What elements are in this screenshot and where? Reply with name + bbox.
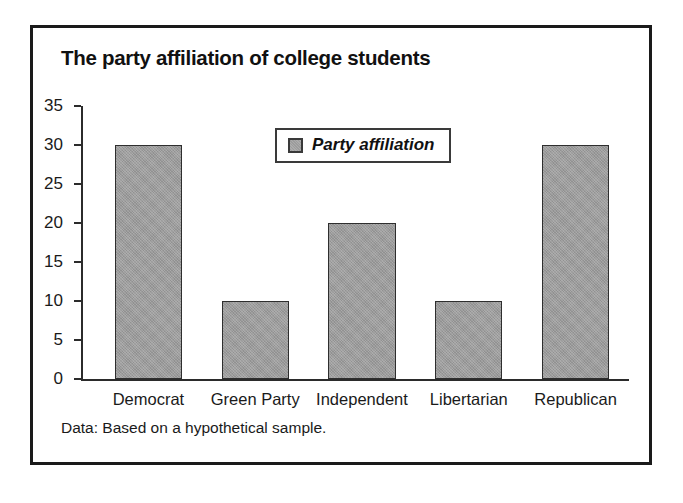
chart-title: The party affiliation of college student…: [61, 46, 430, 70]
y-axis-tick-label: 5: [54, 330, 63, 350]
y-axis-tick: 15: [74, 261, 81, 263]
bar: [542, 145, 609, 379]
chart-footnote: Data: Based on a hypothetical sample.: [61, 419, 326, 437]
bar: [115, 145, 182, 379]
y-axis-tick: 10: [74, 300, 81, 302]
x-axis-label: Libertarian: [415, 390, 522, 409]
y-axis-tick-label: 30: [44, 135, 63, 155]
chart-legend: Party affiliation: [275, 128, 451, 163]
bar: [435, 301, 502, 379]
y-axis-tick: 5: [74, 339, 81, 341]
y-axis-tick: 25: [74, 183, 81, 185]
x-axis-label: Republican: [522, 390, 629, 409]
legend-swatch-icon: [288, 138, 303, 153]
x-axis-label: Democrat: [95, 390, 202, 409]
y-axis-tick: 0: [74, 378, 81, 380]
y-axis-tick-label: 25: [44, 174, 63, 194]
y-axis-tick: 35: [74, 105, 81, 107]
y-axis-tick: 20: [74, 222, 81, 224]
bar: [222, 301, 289, 379]
y-axis-tick-label: 15: [44, 252, 63, 272]
x-axis-label: Independent: [309, 390, 416, 409]
y-axis-tick-label: 0: [54, 369, 63, 389]
chart-frame: The party affiliation of college student…: [30, 25, 652, 465]
y-axis-tick-label: 20: [44, 213, 63, 233]
y-axis-tick-label: 10: [44, 291, 63, 311]
x-axis-line: [81, 379, 629, 381]
y-axis-tick: 30: [74, 144, 81, 146]
x-axis-label: Green Party: [202, 390, 309, 409]
legend-label: Party affiliation: [312, 135, 435, 155]
bar: [328, 223, 395, 379]
y-axis-tick-label: 35: [44, 96, 63, 116]
y-axis-line: [81, 106, 83, 381]
